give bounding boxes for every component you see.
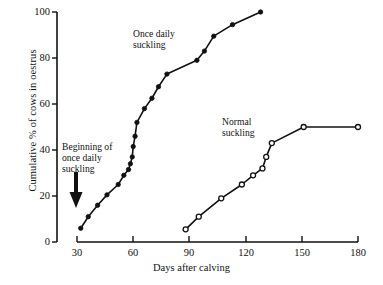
data-point-marker (142, 106, 146, 110)
data-point-marker (150, 96, 154, 100)
data-point-marker (128, 162, 132, 166)
data-point-marker (183, 227, 188, 232)
data-point-marker (301, 125, 306, 130)
data-point-marker (239, 182, 244, 187)
data-point-marker (156, 85, 160, 89)
data-point-marker (230, 22, 234, 26)
data-point-marker (126, 167, 130, 171)
data-point-marker (122, 173, 126, 177)
data-point-marker (165, 72, 169, 76)
chart-figure: Cumulative % of cows in oestrus Days aft… (0, 0, 383, 285)
data-point-marker (195, 58, 199, 62)
data-point-marker (86, 215, 90, 219)
data-point-marker (196, 214, 201, 219)
plot-area (0, 0, 383, 285)
series-once-daily-suckling (79, 10, 263, 231)
data-point-marker (131, 144, 135, 148)
data-point-marker (219, 196, 224, 201)
data-point-marker (133, 134, 137, 138)
x-axis (77, 236, 358, 242)
data-point-marker (79, 226, 83, 230)
series-normal-suckling (183, 125, 360, 232)
y-axis (52, 12, 57, 242)
data-point-marker (356, 125, 361, 130)
data-point-marker (258, 10, 262, 14)
data-point-marker (269, 141, 274, 146)
data-point-marker (251, 173, 256, 178)
data-point-marker (105, 193, 109, 197)
data-point-marker (95, 203, 99, 207)
data-point-marker (130, 155, 134, 159)
data-point-marker (264, 154, 269, 159)
down-arrow-icon (70, 172, 83, 208)
data-point-marker (116, 182, 120, 186)
data-point-marker (202, 49, 206, 53)
data-point-marker (260, 166, 265, 171)
data-point-marker (135, 120, 139, 124)
data-point-marker (212, 34, 216, 38)
